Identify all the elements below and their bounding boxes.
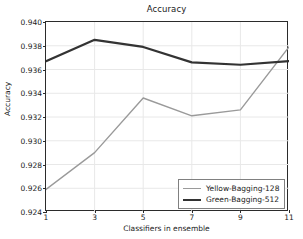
y-tick-mark bbox=[43, 93, 46, 94]
y-tick-mark bbox=[43, 117, 46, 118]
y-tick-label: 0.936 bbox=[21, 65, 42, 74]
y-tick-mark bbox=[43, 141, 46, 142]
x-tick-label: 5 bbox=[141, 213, 146, 222]
x-tick-label: 7 bbox=[189, 213, 194, 222]
y-tick-mark bbox=[43, 46, 46, 47]
x-tick-label: 3 bbox=[92, 213, 97, 222]
series-line bbox=[46, 40, 289, 65]
y-tick-label: 0.934 bbox=[21, 89, 42, 98]
y-axis-label: Accuracy bbox=[3, 82, 12, 116]
chart-figure: Accuracy Accuracy 0.9240.9260.9280.9300.… bbox=[0, 0, 303, 239]
y-tick-label: 0.926 bbox=[21, 184, 42, 193]
chart-title: Accuracy bbox=[45, 4, 288, 14]
legend-label: Green-Bagging-512 bbox=[206, 195, 279, 204]
y-tick-label: 0.932 bbox=[21, 113, 42, 122]
legend-swatch-icon bbox=[183, 188, 201, 189]
y-tick-mark bbox=[43, 188, 46, 189]
legend-swatch-icon bbox=[183, 199, 201, 201]
y-tick-label: 0.940 bbox=[21, 18, 42, 27]
legend-item[interactable]: Green-Bagging-512 bbox=[183, 194, 279, 205]
x-tick-label: 9 bbox=[238, 213, 243, 222]
x-tick-label: 1 bbox=[44, 213, 49, 222]
legend-label: Yellow-Bagging-128 bbox=[206, 184, 279, 193]
y-tick-mark bbox=[43, 22, 46, 23]
y-tick-label: 0.928 bbox=[21, 160, 42, 169]
y-tick-label: 0.930 bbox=[21, 136, 42, 145]
x-axis-label: Classifiers in ensemble bbox=[45, 224, 288, 233]
legend-item[interactable]: Yellow-Bagging-128 bbox=[183, 183, 279, 194]
y-tick-label: 0.924 bbox=[21, 208, 42, 217]
chart-legend: Yellow-Bagging-128 Green-Bagging-512 bbox=[178, 179, 285, 209]
series-line bbox=[46, 47, 289, 190]
y-tick-mark bbox=[43, 165, 46, 166]
x-tick-label: 11 bbox=[284, 213, 294, 222]
y-tick-label: 0.938 bbox=[21, 41, 42, 50]
y-tick-mark bbox=[43, 70, 46, 71]
